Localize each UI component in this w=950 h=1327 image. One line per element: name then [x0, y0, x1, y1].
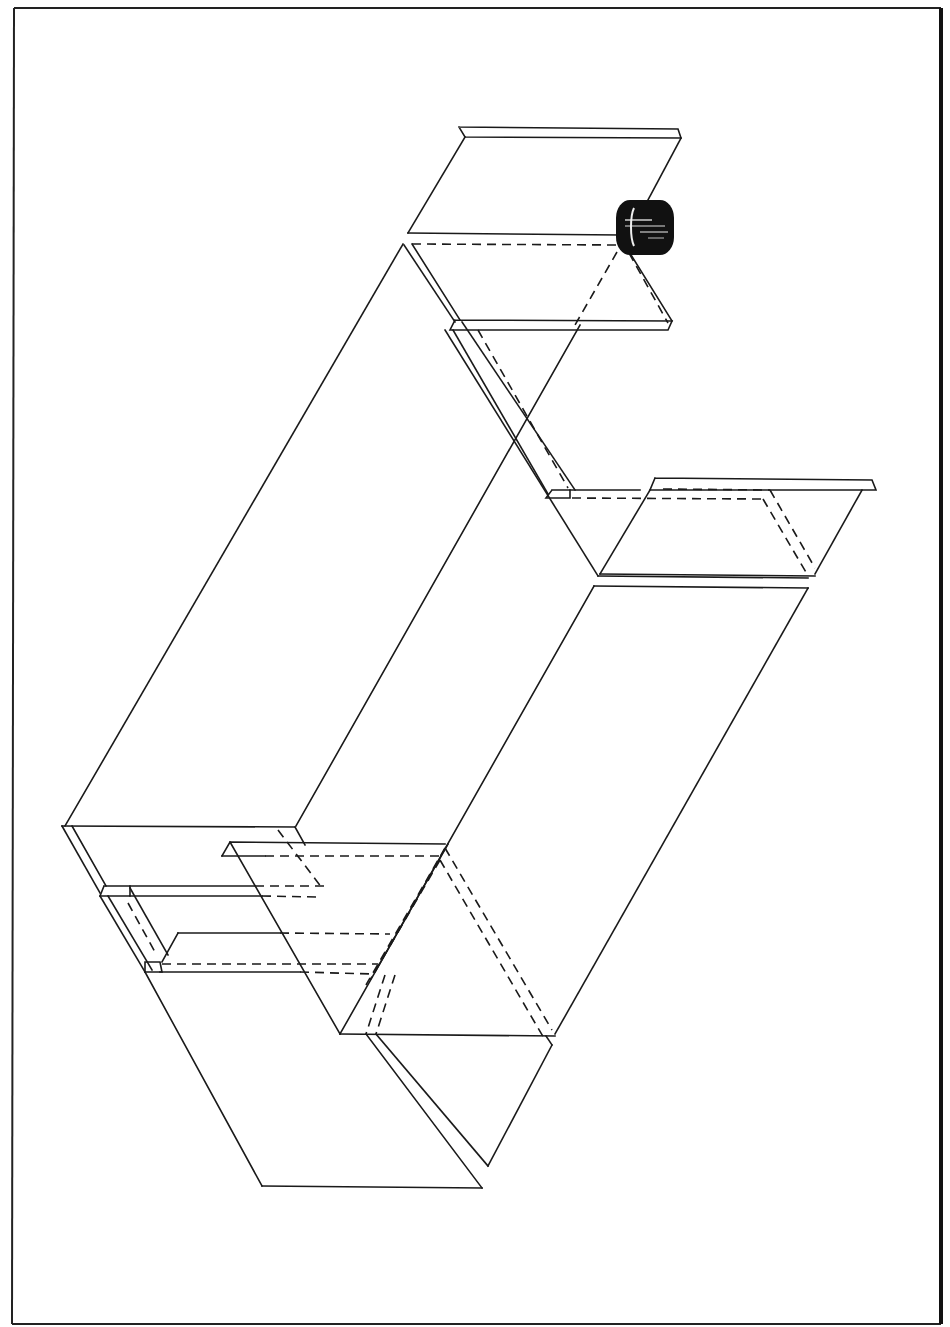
page-frame	[12, 8, 941, 1324]
main-box-body	[65, 244, 808, 1036]
bottom-open-panel	[145, 972, 552, 1188]
cylindrical-fitting	[616, 200, 674, 255]
right-side-flanged-panel	[546, 478, 876, 576]
technical-drawing	[0, 0, 950, 1327]
inner-insert-panel	[222, 842, 552, 1040]
